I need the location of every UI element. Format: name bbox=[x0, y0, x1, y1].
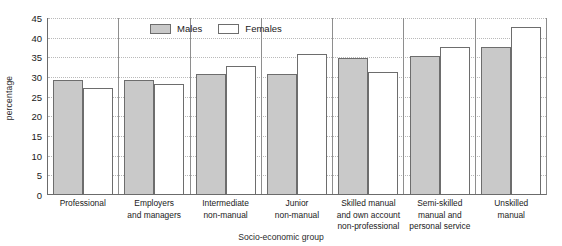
y-axis-tick: 20 bbox=[31, 111, 42, 122]
bar-group bbox=[404, 18, 475, 194]
bar-females bbox=[297, 54, 327, 194]
bar-males bbox=[124, 80, 154, 194]
x-axis-tick-line: Employers bbox=[119, 198, 188, 210]
x-axis-tick-line: and own account bbox=[334, 210, 403, 222]
y-axis-tick: 30 bbox=[31, 72, 42, 83]
bar-females bbox=[83, 88, 113, 194]
bar-males bbox=[267, 74, 297, 194]
y-axis-tick-labels: 051015202530354045 bbox=[18, 18, 46, 195]
y-axis-tick: 10 bbox=[31, 150, 42, 161]
legend: Males Females bbox=[150, 23, 282, 34]
y-axis-tick: 25 bbox=[31, 91, 42, 102]
x-axis-tick-line: non-professional bbox=[334, 221, 403, 233]
bar-group bbox=[191, 18, 262, 194]
bar-females bbox=[154, 84, 184, 194]
bar-group bbox=[119, 18, 190, 194]
y-axis-tick: 35 bbox=[31, 52, 42, 63]
x-axis-tick-line: non-manual bbox=[191, 210, 260, 222]
y-axis-tick: 5 bbox=[37, 170, 42, 181]
x-axis-tick: Skilled manualand own accountnon-profess… bbox=[333, 198, 404, 233]
x-axis-tick-line: manual bbox=[477, 210, 546, 222]
x-axis-tick-line: and managers bbox=[119, 210, 188, 222]
x-axis-tick: Employersand managers bbox=[118, 198, 189, 233]
y-axis-tick: 45 bbox=[31, 13, 42, 24]
bar-males bbox=[410, 56, 440, 194]
legend-label-females: Females bbox=[245, 23, 281, 34]
legend-swatch-males-icon bbox=[150, 24, 171, 34]
bar-males bbox=[481, 47, 511, 195]
bar-group bbox=[262, 18, 333, 194]
y-axis-tick: 0 bbox=[37, 190, 42, 201]
x-axis-tick-line: Semi-skilled bbox=[405, 198, 474, 210]
bar-group bbox=[48, 18, 119, 194]
plot-area bbox=[47, 18, 547, 195]
bar-females bbox=[440, 47, 470, 195]
x-axis-tick-line: manual and bbox=[405, 210, 474, 222]
bar-males bbox=[196, 74, 226, 194]
y-axis-title: percentage bbox=[0, 0, 18, 196]
x-axis-tick-line: non-manual bbox=[262, 210, 331, 222]
bar-males bbox=[53, 80, 83, 194]
x-axis-tick-line: Intermediate bbox=[191, 198, 260, 210]
x-axis-tick-line: Junior bbox=[262, 198, 331, 210]
y-axis-tick: 40 bbox=[31, 32, 42, 43]
x-axis-tick: Professional bbox=[47, 198, 118, 233]
x-axis-tick-line: Professional bbox=[48, 198, 117, 210]
bar-group bbox=[333, 18, 404, 194]
x-axis-tick: Intermediatenon-manual bbox=[190, 198, 261, 233]
x-axis-tick-line: Skilled manual bbox=[334, 198, 403, 210]
bar-females bbox=[511, 27, 541, 194]
x-axis-tick: Semi-skilledmanual andpersonal service bbox=[404, 198, 475, 233]
bar-males bbox=[338, 58, 368, 194]
y-axis-title-text: percentage bbox=[4, 76, 14, 121]
x-axis-tick-line: Unskilled bbox=[477, 198, 546, 210]
x-axis-tick-labels: ProfessionalEmployersand managersInterme… bbox=[47, 198, 547, 233]
bar-females bbox=[368, 72, 398, 194]
legend-entry-males: Males bbox=[150, 23, 202, 34]
legend-entry-females: Females bbox=[218, 23, 281, 34]
bar-groups bbox=[48, 18, 546, 194]
x-axis-tick: Unskilledmanual bbox=[476, 198, 547, 233]
legend-label-males: Males bbox=[177, 23, 202, 34]
x-axis-title: Socio-economic group bbox=[0, 232, 562, 242]
x-axis-tick: Juniornon-manual bbox=[261, 198, 332, 233]
y-axis-tick: 15 bbox=[31, 131, 42, 142]
bar-females bbox=[226, 66, 256, 194]
legend-swatch-females-icon bbox=[218, 24, 239, 34]
x-axis-tick-line: personal service bbox=[405, 221, 474, 233]
bar-chart: percentage 051015202530354045 Males Fema… bbox=[0, 0, 562, 246]
bar-group bbox=[476, 18, 546, 194]
